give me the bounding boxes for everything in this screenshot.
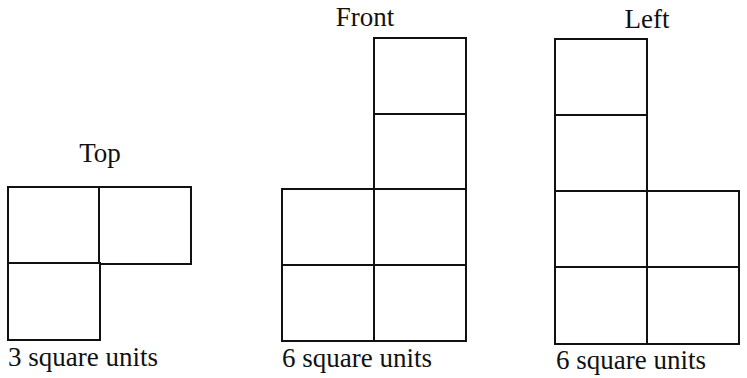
top-view-caption: 3 square units: [8, 342, 158, 373]
left-view-square: [554, 266, 648, 345]
front-view-caption: 6 square units: [282, 343, 432, 374]
top-view-title: Top: [79, 138, 121, 169]
front-view-square: [281, 188, 375, 266]
top-view-square: [98, 186, 192, 265]
left-view-square: [646, 190, 740, 269]
front-view-square: [373, 264, 467, 342]
left-view-title: Left: [625, 4, 670, 35]
front-view-square: [373, 37, 467, 115]
front-view-square: [373, 113, 467, 191]
front-view-square: [373, 188, 467, 266]
top-view-square: [7, 186, 101, 265]
left-view-square: [554, 38, 648, 117]
left-view-square: [646, 266, 740, 345]
front-view-title: Front: [336, 2, 395, 33]
left-view-square: [554, 114, 648, 193]
top-view-square: [7, 262, 101, 341]
left-view-caption: 6 square units: [556, 345, 706, 376]
left-view-square: [554, 190, 648, 269]
front-view-square: [281, 264, 375, 342]
